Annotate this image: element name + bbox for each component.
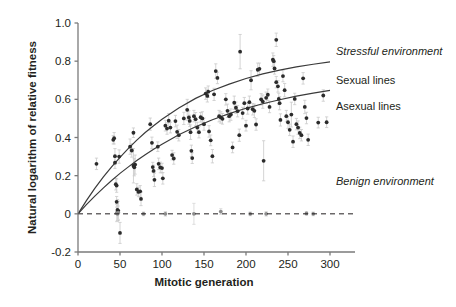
data-point xyxy=(174,119,178,123)
data-point xyxy=(113,161,117,165)
data-point xyxy=(274,80,278,84)
data-point xyxy=(138,189,142,193)
annotation-asexual-lines: Asexual lines xyxy=(336,100,401,112)
x-tick-label: 100 xyxy=(152,258,171,270)
y-tick-label: 0.6 xyxy=(55,93,71,105)
data-point xyxy=(190,156,194,160)
x-tick-label: 50 xyxy=(114,258,127,270)
x-tick-label: 300 xyxy=(320,258,339,270)
y-tick-label: 0.8 xyxy=(55,55,71,67)
data-point xyxy=(321,94,325,98)
data-point xyxy=(133,163,137,167)
data-point xyxy=(150,141,154,145)
annotation-benign-environment: Benign environment xyxy=(336,175,435,187)
data-point xyxy=(212,92,216,96)
data-point xyxy=(284,114,288,118)
data-point xyxy=(202,122,206,126)
tick-labels-layer: -0.200.20.40.60.81.0050100150200250300Mi… xyxy=(26,17,340,288)
data-point xyxy=(289,113,293,117)
data-point xyxy=(151,165,155,169)
y-tick-label: -0.2 xyxy=(51,246,71,258)
data-point xyxy=(200,117,204,121)
data-point xyxy=(117,155,121,159)
data-point xyxy=(152,169,156,173)
data-point xyxy=(241,111,245,115)
data-point xyxy=(279,118,283,122)
data-point xyxy=(165,127,169,131)
data-point xyxy=(253,109,257,113)
data-point xyxy=(209,138,213,142)
annotation-stressful-environment: Stressful environment xyxy=(336,45,443,57)
data-point xyxy=(185,108,189,112)
annotation-sexual-lines: Sexual lines xyxy=(336,74,396,86)
data-point xyxy=(206,90,210,94)
fit-curve-asexual-lines xyxy=(78,90,330,213)
data-point xyxy=(301,76,305,80)
data-point xyxy=(118,231,122,235)
x-tick-label: 150 xyxy=(194,258,213,270)
data-point xyxy=(296,126,300,130)
errorbars-layer xyxy=(95,33,328,243)
data-point xyxy=(293,97,297,101)
y-tick-label: 1.0 xyxy=(55,17,71,29)
scatter-plot: -0.200.20.40.60.81.0050100150200250300Mi… xyxy=(0,0,456,307)
data-point xyxy=(238,50,242,54)
data-point xyxy=(205,94,209,98)
x-axis-title: Mitotic generation xyxy=(154,276,253,288)
data-point xyxy=(216,76,220,80)
data-point xyxy=(153,178,157,182)
data-point xyxy=(276,84,280,88)
data-point xyxy=(95,162,99,166)
data-point xyxy=(167,119,171,123)
data-point xyxy=(188,119,192,123)
data-point xyxy=(295,122,299,126)
data-point xyxy=(128,145,132,149)
data-point xyxy=(268,105,272,109)
data-point xyxy=(169,126,173,130)
data-point xyxy=(224,97,228,101)
data-point xyxy=(236,109,240,113)
data-point xyxy=(197,130,201,134)
data-point xyxy=(254,123,258,127)
data-point xyxy=(229,113,233,117)
data-point xyxy=(246,107,250,111)
data-point xyxy=(303,105,307,109)
data-point xyxy=(187,116,191,120)
data-point xyxy=(226,109,230,113)
data-point xyxy=(113,154,117,158)
data-point xyxy=(244,124,248,128)
data-point xyxy=(194,117,198,121)
data-point xyxy=(262,159,266,163)
x-tick-label: 250 xyxy=(278,258,297,270)
data-point xyxy=(266,93,270,97)
data-point xyxy=(273,67,277,71)
data-point xyxy=(283,88,287,92)
data-point xyxy=(221,117,225,121)
data-point xyxy=(214,69,218,73)
data-point xyxy=(157,162,161,166)
data-point xyxy=(172,157,176,161)
data-point xyxy=(139,197,143,201)
data-point xyxy=(130,149,134,153)
data-point xyxy=(305,116,309,120)
data-point xyxy=(207,129,211,133)
data-point xyxy=(247,100,251,104)
data-point xyxy=(115,184,119,188)
data-point xyxy=(261,100,265,104)
data-point xyxy=(234,106,238,110)
data-point xyxy=(170,153,174,157)
data-point xyxy=(286,120,290,124)
x-tick-label: 200 xyxy=(236,258,255,270)
data-point xyxy=(160,166,164,170)
data-point xyxy=(190,149,194,153)
data-point xyxy=(231,146,235,150)
y-tick-label: 0.2 xyxy=(55,170,71,182)
data-point xyxy=(182,117,186,121)
annotations-layer: Stressful environmentSexual linesAsexual… xyxy=(336,45,443,187)
data-point xyxy=(177,133,181,137)
data-point xyxy=(148,122,152,126)
data-point xyxy=(325,120,329,124)
data-point xyxy=(232,101,236,105)
data-point xyxy=(211,154,215,158)
data-point xyxy=(189,130,193,134)
